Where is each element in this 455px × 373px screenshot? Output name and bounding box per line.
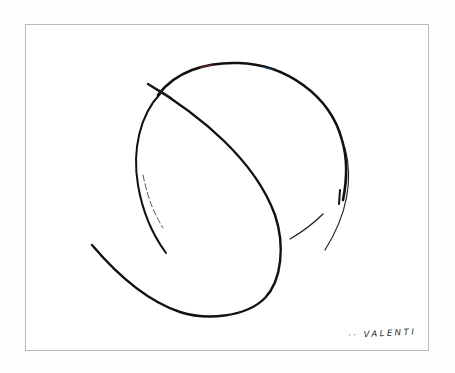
sphere-outline-stroke xyxy=(158,63,346,200)
inner-left-arc xyxy=(143,175,163,228)
line-drawing xyxy=(0,0,455,373)
lower-right-stroke xyxy=(290,214,323,239)
seam-diagonal-stroke xyxy=(92,84,281,316)
right-fragment xyxy=(339,190,340,204)
sphere-left-stroke xyxy=(136,94,166,253)
